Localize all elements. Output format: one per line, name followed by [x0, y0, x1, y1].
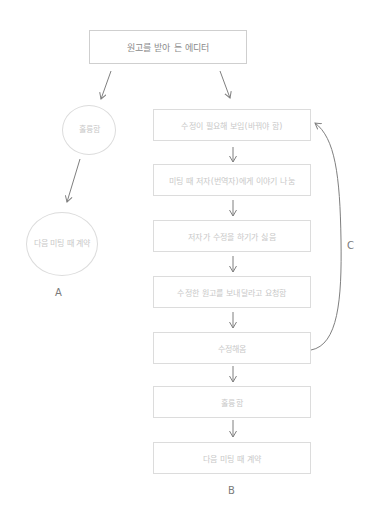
node-b7: 다음 미팅 때 계약	[153, 442, 311, 474]
flowchart-canvas: 원고를 받아 든 에디터 훌륭함 다음 미팅 때 계약 A 수정이 필요해 보임…	[0, 0, 374, 527]
path-a-label: A	[55, 287, 62, 298]
start-node-label: 원고를 받아 든 에디터	[127, 41, 210, 54]
node-b7-label: 다음 미팅 때 계약	[203, 453, 262, 464]
node-a1-circle: 훌륭함	[62, 105, 116, 155]
start-node: 원고를 받아 든 에디터	[89, 30, 247, 64]
node-a1-label: 훌륭함	[79, 124, 100, 136]
node-b5: 수정해옴	[153, 332, 311, 364]
node-b2-label: 미팅 때 저자(번역자)에게 이야기 나눔	[169, 175, 295, 186]
node-b6-label: 훌륭함	[221, 397, 243, 408]
node-b1-label: 수정이 필요해 보임(바꿔야 함)	[181, 120, 282, 131]
path-b-label: B	[228, 485, 235, 496]
node-b4: 수정한 원고를 보내달라고 요청함	[153, 276, 311, 308]
node-b3: 저자가 수정을 하기가 싫음	[153, 220, 311, 252]
loop-c-label: C	[347, 240, 354, 251]
node-b4-label: 수정한 원고를 보내달라고 요청함	[177, 287, 286, 298]
node-b3-label: 저자가 수정을 하기가 싫음	[188, 231, 275, 242]
node-b2: 미팅 때 저자(번역자)에게 이야기 나눔	[153, 164, 311, 196]
arrow-loop-c	[311, 123, 341, 350]
node-a2-label: 다음 미팅 때 계약	[34, 238, 91, 250]
arrow-start-to-b	[220, 71, 230, 98]
arrow-a1-to-a2	[67, 159, 80, 202]
node-a2-circle: 다음 미팅 때 계약	[26, 212, 98, 276]
node-b1: 수정이 필요해 보임(바꿔야 함)	[153, 109, 311, 141]
node-b6: 훌륭함	[153, 386, 311, 418]
node-b5-label: 수정해옴	[218, 343, 247, 354]
arrow-start-to-a	[101, 71, 111, 99]
